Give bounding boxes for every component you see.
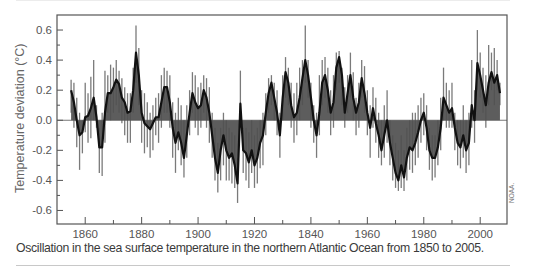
x-tick-label: 1840 — [298, 228, 324, 240]
x-tick-label: 1860 — [72, 228, 98, 240]
x-tick-label: 1960 — [355, 228, 381, 240]
y-tick-label: 0.4 — [36, 54, 53, 66]
x-tick-label: 1900 — [185, 228, 211, 240]
x-tick-label: 1880 — [129, 228, 155, 240]
bottom-rule — [16, 265, 510, 266]
y-tick-label: 0.2 — [36, 84, 52, 96]
x-tick-label: 2000 — [467, 228, 493, 240]
y-tick-label: 0.6 — [36, 24, 52, 36]
y-tick-label: -0.6 — [32, 204, 52, 216]
y-axis-label: Temperature deviation (°C) — [13, 43, 27, 193]
credit-label: NOAA. — [508, 183, 515, 203]
y-tick-label: 0.0 — [36, 114, 52, 126]
x-tick-label: 1980 — [411, 228, 437, 240]
temperature-chart: Temperature deviation (°C) 0.60.40.20.0-… — [0, 0, 537, 272]
y-tick-label: -0.2 — [32, 144, 52, 156]
y-tick-label: -0.4 — [32, 174, 52, 186]
y-axis-ticks: 0.60.40.20.0-0.2-0.4-0.6 — [32, 24, 63, 216]
y-axis-title: Temperature deviation (°C) — [13, 43, 27, 193]
x-tick-label: 1920 — [242, 228, 268, 240]
figure-caption: Oscillation in the sea surface temperatu… — [16, 240, 484, 255]
x-axis-ticks: 18601880190019201840196019802000 — [72, 217, 493, 240]
